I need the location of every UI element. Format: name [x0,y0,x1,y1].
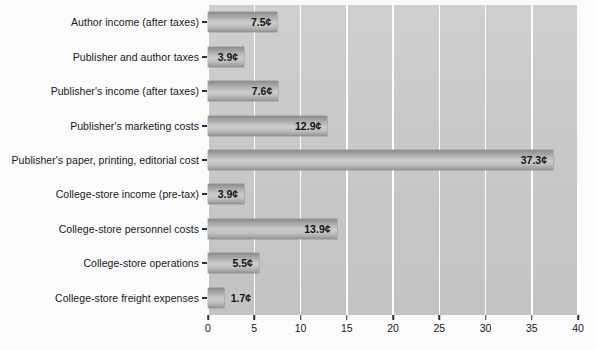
value-tick [439,315,441,320]
category-label: Author income (after taxes) [71,16,199,28]
value-tick-label: 20 [387,322,399,334]
category-label-row: Publisher's income (after taxes) [51,81,199,101]
value-tick [485,315,487,320]
plot-area: 7.5¢3.9¢7.6¢12.9¢37.3¢3.9¢13.9¢5.5¢1.7¢ [208,5,578,315]
bar: 3.9¢ [208,184,244,204]
value-tick-label: 30 [480,322,492,334]
value-tick-label: 5 [251,322,257,334]
bar-chart: Author income (after taxes)Publisher and… [0,0,596,350]
bar-value-label: 7.6¢ [252,81,272,101]
value-tick [346,315,348,320]
value-tick-label: 0 [205,322,211,334]
category-label: College-store personnel costs [59,223,199,235]
bar: 13.9¢ [208,219,337,239]
value-tick-label: 25 [433,322,445,334]
bar: 5.5¢ [208,253,259,273]
bar-value-label: 37.3¢ [521,150,547,170]
category-label-row: College-store personnel costs [59,219,199,239]
bar-value-label: 7.5¢ [251,12,271,32]
value-tick [531,315,533,320]
category-label-row: Publisher's marketing costs [70,116,199,136]
value-tick [254,315,256,320]
category-label-row: Publisher's paper, printing, editorial c… [12,150,199,170]
category-label: College-store freight expenses [55,292,199,304]
value-tick-label: 35 [526,322,538,334]
bar: 3.9¢ [208,47,244,67]
category-label: Publisher's paper, printing, editorial c… [12,154,199,166]
bar-value-label: 5.5¢ [232,253,252,273]
category-label-row: Author income (after taxes) [71,12,199,32]
category-label: College-store operations [83,257,199,269]
category-label: Publisher's marketing costs [70,120,199,132]
bar-value-label: 12.9¢ [295,116,321,136]
bar: 7.6¢ [208,81,278,101]
bar-value-label: 1.7¢ [231,288,251,308]
gridline-40 [577,5,579,315]
value-tick [207,315,209,320]
bar-value-label: 13.9¢ [304,219,330,239]
value-axis: 0510152025303540 [208,315,578,350]
category-label: Publisher and author taxes [73,51,199,63]
bar: 1.7¢ [208,288,224,308]
bar: 12.9¢ [208,116,327,136]
category-label: College-store income (pre-tax) [56,188,199,200]
bar: 37.3¢ [208,150,553,170]
category-axis: Author income (after taxes)Publisher and… [0,5,208,315]
value-tick-label: 40 [572,322,584,334]
category-label-row: College-store freight expenses [55,288,199,308]
value-tick [577,315,579,320]
value-tick [300,315,302,320]
bar-value-label: 3.9¢ [218,184,238,204]
category-label-row: College-store operations [83,253,199,273]
category-label-row: College-store income (pre-tax) [56,184,199,204]
category-label-row: Publisher and author taxes [73,47,199,67]
category-label: Publisher's income (after taxes) [51,85,199,97]
bar-value-label: 3.9¢ [218,47,238,67]
value-tick-label: 10 [295,322,307,334]
value-tick [392,315,394,320]
bar: 7.5¢ [208,12,277,32]
value-tick-label: 15 [341,322,353,334]
